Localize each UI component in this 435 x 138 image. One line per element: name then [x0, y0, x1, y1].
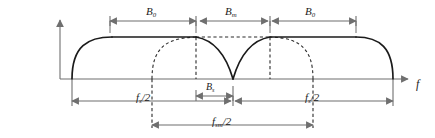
curve-right-rolloff [356, 37, 393, 79]
label-b0-left: B0 [146, 6, 156, 19]
label-b0-right: B0 [305, 6, 315, 19]
curve-notch-right [233, 37, 270, 79]
dashed-construction-curves [152, 37, 313, 79]
label-fs-left: fs/2 [136, 92, 150, 105]
dashed-lobe-right [270, 37, 313, 79]
label-fs-right: fs/2 [305, 92, 319, 105]
dashed-vertical-guides [152, 37, 313, 128]
label-bm: Bm [225, 6, 237, 19]
extension-lines-top [110, 21, 356, 33]
spectrum-curve [72, 37, 393, 79]
curve-left-rolloff [72, 37, 112, 79]
label-fsm: fsm/2 [212, 116, 231, 129]
frequency-axis-label: f [416, 78, 419, 90]
dashed-lobe-left [152, 37, 196, 79]
curve-notch-left [196, 37, 233, 79]
label-bs: Bs [206, 82, 215, 93]
spectrum-diagram: B0 Bm B0 Bs fs/2 fs/2 fsm/2 f [0, 0, 435, 138]
